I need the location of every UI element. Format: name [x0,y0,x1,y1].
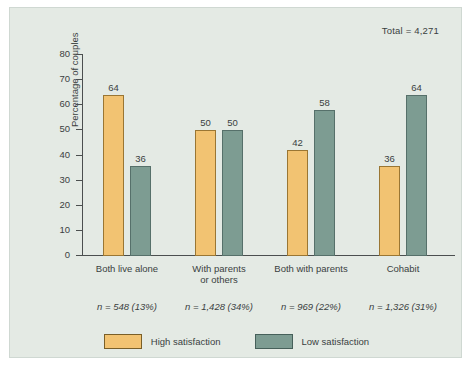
y-tick-label-80: 80 [30,48,70,59]
high-satisfaction-swatch [104,334,142,349]
bar-both-with-parents-low[interactable]: 58 [314,110,335,256]
y-tick-0 [76,255,82,256]
y-tick-label-40: 40 [30,149,70,160]
total-annotation: Total = 4,271 [382,25,439,36]
category-line: or others [164,274,274,285]
legend-item-high-satisfaction[interactable]: High satisfaction [104,334,221,349]
bar-with-parents-or-others-high[interactable]: 50 [195,130,216,256]
bar-value-label: 36 [384,153,395,164]
y-tick-label-30: 30 [30,174,70,185]
chart-panel: Total = 4,271 Percentage of couples 0 10… [9,7,462,358]
y-tick-30 [76,180,82,181]
bar-value-label: 36 [135,153,146,164]
y-tick-label-70: 70 [30,73,70,84]
chart-legend: High satisfaction Low satisfaction [10,334,463,349]
y-tick-20 [76,205,82,206]
y-tick-60 [76,104,82,105]
bar-with-parents-or-others-low[interactable]: 50 [222,130,243,256]
y-tick-label-50: 50 [30,123,70,134]
bar-value-label: 58 [319,97,330,108]
y-axis-line [82,54,83,255]
bar-both-with-parents-high[interactable]: 42 [287,150,308,256]
bar-value-label: 42 [292,137,303,148]
y-tick-label-0: 0 [30,249,70,260]
category-label-cohabit: Cohabit [348,263,458,274]
y-tick-10 [76,230,82,231]
y-tick-80 [76,54,82,55]
legend-label: High satisfaction [151,336,221,347]
bar-value-label: 64 [411,82,422,93]
low-satisfaction-swatch [255,334,293,349]
y-tick-50 [76,129,82,130]
y-tick-label-10: 10 [30,224,70,235]
bar-value-label: 50 [200,117,211,128]
plot-area: Percentage of couples 0 10 20 30 40 50 6… [73,47,455,257]
y-tick-40 [76,155,82,156]
bar-value-label: 50 [227,117,238,128]
legend-label: Low satisfaction [302,336,370,347]
bar-cohabit-low[interactable]: 64 [406,95,427,256]
bar-cohabit-high[interactable]: 36 [379,166,400,256]
y-tick-70 [76,79,82,80]
y-tick-label-60: 60 [30,98,70,109]
group-note-cohabit: n = 1,326 (31%) [343,301,463,312]
category-line: Cohabit [348,263,458,274]
bar-both-live-alone-low[interactable]: 36 [130,166,151,256]
legend-item-low-satisfaction[interactable]: Low satisfaction [255,334,370,349]
bar-value-label: 64 [108,82,119,93]
bar-both-live-alone-high[interactable]: 64 [103,95,124,256]
y-tick-label-20: 20 [30,199,70,210]
